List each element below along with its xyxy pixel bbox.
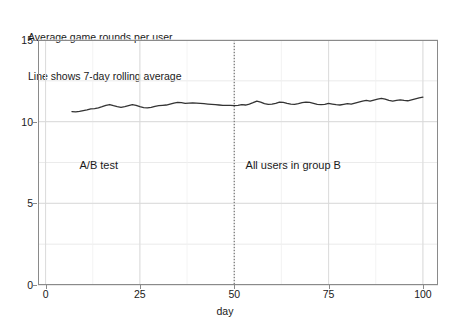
x-tick-mark [329, 285, 330, 289]
y-axis-ticks: 051015 [0, 40, 33, 285]
y-tick-mark [33, 122, 37, 123]
y-tick-label: 15 [3, 34, 33, 46]
x-tick-label: 75 [323, 288, 335, 300]
x-tick-label: 0 [43, 288, 49, 300]
y-tick-label: 5 [3, 197, 33, 209]
y-tick-label: 10 [3, 116, 33, 128]
x-tick-mark [46, 285, 47, 289]
x-tick-label: 100 [414, 288, 432, 300]
y-tick-mark [33, 203, 37, 204]
x-tick-mark [234, 285, 235, 289]
x-tick-label: 25 [134, 288, 146, 300]
x-tick-label: 50 [228, 288, 240, 300]
chart-figure: Average game rounds per user Line shows … [0, 0, 450, 332]
ab-test-label: A/B test [80, 159, 119, 171]
group-b-label: All users in group B [246, 159, 341, 171]
y-tick-mark [33, 40, 37, 41]
x-axis-ticks: 0255075100 [38, 288, 438, 304]
x-axis-label: day [0, 305, 450, 317]
x-tick-mark [423, 285, 424, 289]
x-tick-mark [140, 285, 141, 289]
y-tick-mark [33, 285, 37, 286]
y-tick-label: 0 [3, 279, 33, 291]
